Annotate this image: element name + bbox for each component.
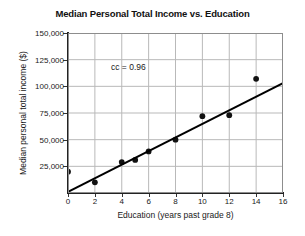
x-tick-mark: [149, 194, 150, 197]
x-tick-mark: [95, 194, 96, 197]
y-tick-mark: [63, 113, 67, 114]
y-tick-mark: [63, 86, 67, 87]
trend-line: [68, 83, 283, 192]
x-tick-mark: [176, 194, 177, 197]
data-layer: [68, 33, 283, 193]
chart-figure: Median Personal Total Income vs. Educati…: [0, 0, 305, 236]
y-axis-tick-labels: 25,00050,00075,000100,000125,000150,000: [0, 0, 64, 236]
y-tick-label: 25,000: [40, 162, 64, 171]
y-tick-label: 100,000: [35, 82, 64, 91]
x-tick-label: 6: [146, 197, 150, 206]
x-tick-label: 12: [225, 197, 234, 206]
x-tick-label: 8: [173, 197, 177, 206]
data-point: [68, 169, 71, 175]
x-tick-label: 16: [279, 197, 288, 206]
x-tick-mark: [68, 194, 69, 197]
y-tick-mark: [63, 166, 67, 167]
x-tick-label: 4: [120, 197, 124, 206]
correlation-annotation: cc = 0.96: [111, 62, 146, 72]
x-axis-label: Education (years past grade 8): [68, 210, 283, 220]
data-point: [253, 76, 259, 82]
y-tick-label: 150,000: [35, 29, 64, 38]
y-tick-mark: [63, 60, 67, 61]
y-tick-label: 50,000: [40, 135, 64, 144]
y-tick-label: 125,000: [35, 55, 64, 64]
y-axis-label: Median personal total income ($): [18, 28, 28, 198]
x-tick-mark: [202, 194, 203, 197]
data-point: [226, 112, 232, 118]
y-tick-mark: [63, 33, 67, 34]
x-tick-label: 10: [198, 197, 207, 206]
y-tick-mark: [63, 140, 67, 141]
x-tick-label: 14: [252, 197, 261, 206]
x-tick-mark: [256, 194, 257, 197]
plot-area: [68, 33, 283, 193]
data-point: [199, 113, 205, 119]
x-tick-mark: [283, 194, 284, 197]
x-tick-mark: [229, 194, 230, 197]
y-tick-label: 75,000: [40, 109, 64, 118]
x-tick-label: 2: [93, 197, 97, 206]
x-tick-label: 0: [66, 197, 70, 206]
x-tick-mark: [122, 194, 123, 197]
